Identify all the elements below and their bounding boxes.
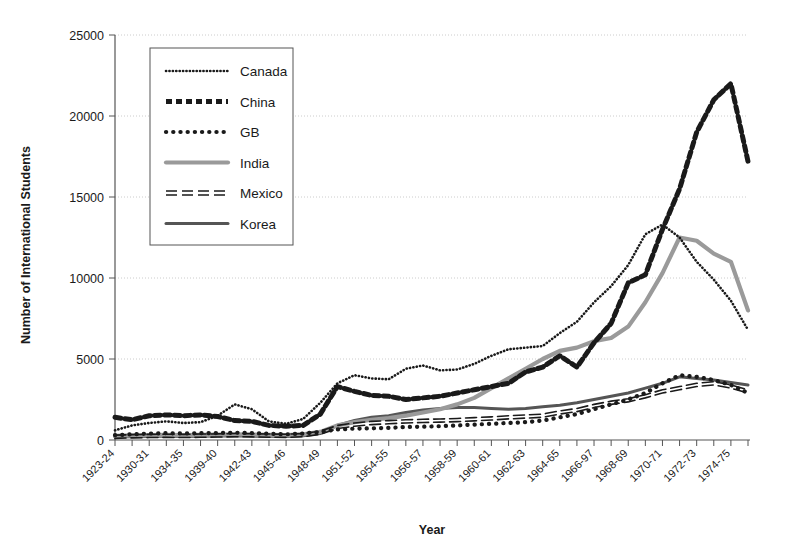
legend-label: India (240, 156, 270, 171)
x-tick-label: 1962-63 (490, 447, 527, 484)
y-axis-tick-labels: 0500010000150002000025000 (69, 29, 104, 448)
series-line (115, 238, 748, 436)
y-axis-ticks (109, 35, 115, 440)
x-axis-title: Year (419, 523, 446, 537)
line-chart: 0500010000150002000025000 1923-241930-31… (0, 0, 785, 545)
y-axis-title: Number of International Students (19, 146, 33, 344)
y-tick-label: 10000 (69, 272, 104, 286)
legend-label: Korea (240, 217, 277, 232)
x-tick-label: 1942-43 (216, 447, 253, 484)
x-tick-label: 1945-46 (250, 447, 287, 484)
series-gb (115, 375, 748, 435)
y-tick-label: 5000 (76, 353, 104, 367)
x-tick-label: 1934-35 (148, 447, 185, 484)
x-tick-label: 1954-55 (353, 447, 390, 484)
legend-label: Mexico (240, 186, 283, 201)
y-tick-label: 20000 (69, 110, 104, 124)
x-tick-label: 1951-52 (319, 447, 356, 484)
x-tick-label: 1960-61 (456, 447, 493, 484)
x-tick-label: 1970-71 (627, 447, 664, 484)
x-axis-tick-labels: 1923-241930-311934-351939-401942-431945-… (79, 447, 732, 484)
y-tick-label: 0 (97, 434, 104, 448)
y-tick-label: 15000 (69, 191, 104, 205)
y-tick-label: 25000 (69, 29, 104, 43)
chart-container: 0500010000150002000025000 1923-241930-31… (0, 0, 785, 545)
x-tick-label: 1958-59 (422, 447, 459, 484)
x-tick-label: 1930-31 (114, 447, 151, 484)
x-tick-label: 1972-73 (661, 447, 698, 484)
x-tick-label: 1966-97 (558, 447, 595, 484)
x-axis-ticks (115, 440, 748, 446)
x-tick-label: 1923-24 (79, 447, 116, 484)
series-line (115, 375, 748, 435)
chart-legend: CanadaChinaGBIndiaMexicoKorea (150, 48, 293, 245)
x-tick-label: 1968-69 (593, 447, 630, 484)
legend-label: GB (240, 125, 260, 140)
series-india (115, 238, 748, 436)
legend-label: China (240, 95, 276, 110)
x-tick-label: 1939-40 (182, 447, 219, 484)
legend-label: Canada (240, 64, 288, 79)
x-tick-label: 1974-75 (695, 447, 732, 484)
x-tick-label: 1948-49 (285, 447, 322, 484)
x-tick-label: 1964-65 (524, 447, 561, 484)
x-tick-label: 1956-57 (387, 447, 424, 484)
